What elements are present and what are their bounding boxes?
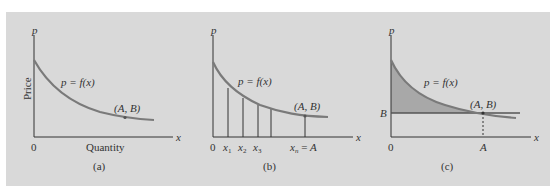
panel-a: p x 0 Quantity Price p = f(x) (A, B) (a) [21,24,181,173]
x-axis-label: x [175,131,181,143]
caption: (b) [263,160,276,173]
origin-label: 0 [388,141,394,153]
y-tick-b: B [380,107,387,119]
x-axis-label: x [355,131,361,143]
point-label: (A, B) [114,102,141,115]
x-title: Quantity [86,141,125,153]
riemann-lines [228,88,305,137]
y-axis-label: p [31,24,38,36]
point-label: (A, B) [470,98,497,111]
curve-label: p = f(x) [237,75,272,88]
caption: (c) [441,160,454,173]
panel-b: p x 0 x1 x2 x3 xn = A p = f(x) (A, B) (b… [210,24,361,173]
point-ab [303,114,306,117]
y-axis-label: p [388,24,395,36]
x-axis-label: x [533,131,539,143]
curve-label: p = f(x) [60,76,95,89]
point-ab [481,111,484,114]
point-label: (A, B) [294,100,321,113]
curve-label: p = f(x) [423,76,458,89]
tick-x2: x2 [237,141,247,155]
panel-c: p x 0 B A p = f(x) (A, B) (c) [380,24,539,173]
origin-label: 0 [210,141,216,153]
tick-x1: x1 [222,141,232,155]
y-axis-label: p [210,24,217,36]
caption: (a) [93,160,106,173]
origin-label: 0 [31,141,37,153]
figure-svg: p x 0 Quantity Price p = f(x) (A, B) (a)… [0,0,556,196]
y-title: Price [21,77,33,100]
point-ab [123,116,126,119]
tick-xn: xn = A [289,141,317,155]
tick-x3: x3 [252,141,262,155]
x-tick-a: A [479,141,487,153]
